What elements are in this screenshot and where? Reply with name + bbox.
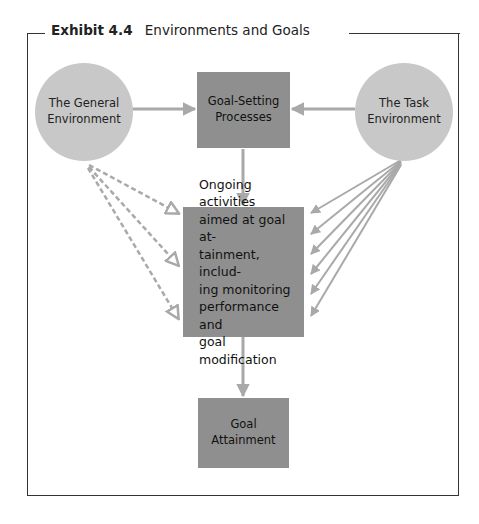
- node-general-environment: The General Environment: [35, 63, 133, 161]
- dashed-arrows-general: [88, 165, 178, 318]
- node-task-environment: The Task Environment: [355, 63, 453, 161]
- goal-setting-label: Goal-Setting Processes: [208, 94, 280, 125]
- goal-attainment-label: Goal Attainment: [211, 417, 275, 448]
- node-ongoing-activities: Ongoing activities aimed at goal at- tai…: [183, 207, 304, 337]
- task-environment-label: The Task Environment: [367, 96, 440, 127]
- solid-arrows-task: [311, 160, 401, 316]
- general-environment-label: The General Environment: [47, 96, 120, 127]
- ongoing-activities-label: Ongoing activities aimed at goal at- tai…: [199, 176, 304, 369]
- node-goal-attainment: Goal Attainment: [198, 398, 289, 468]
- node-goal-setting: Goal-Setting Processes: [197, 72, 290, 148]
